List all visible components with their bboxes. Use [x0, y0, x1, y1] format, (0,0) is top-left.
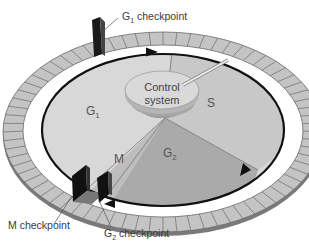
phase-label-s: S [207, 96, 215, 110]
g1-checkpoint-gate [92, 17, 105, 57]
m-checkpoint-label: M checkpoint [8, 219, 70, 231]
control-system-label-line1: Control [144, 81, 179, 93]
cell-cycle-diagram: Control system G1 S G2 M G1 checkpoint M… [0, 0, 309, 250]
control-system-label-line2: system [145, 94, 180, 106]
phase-label-m: M [114, 152, 124, 166]
g1-checkpoint-label: G1 checkpoint [122, 10, 187, 24]
